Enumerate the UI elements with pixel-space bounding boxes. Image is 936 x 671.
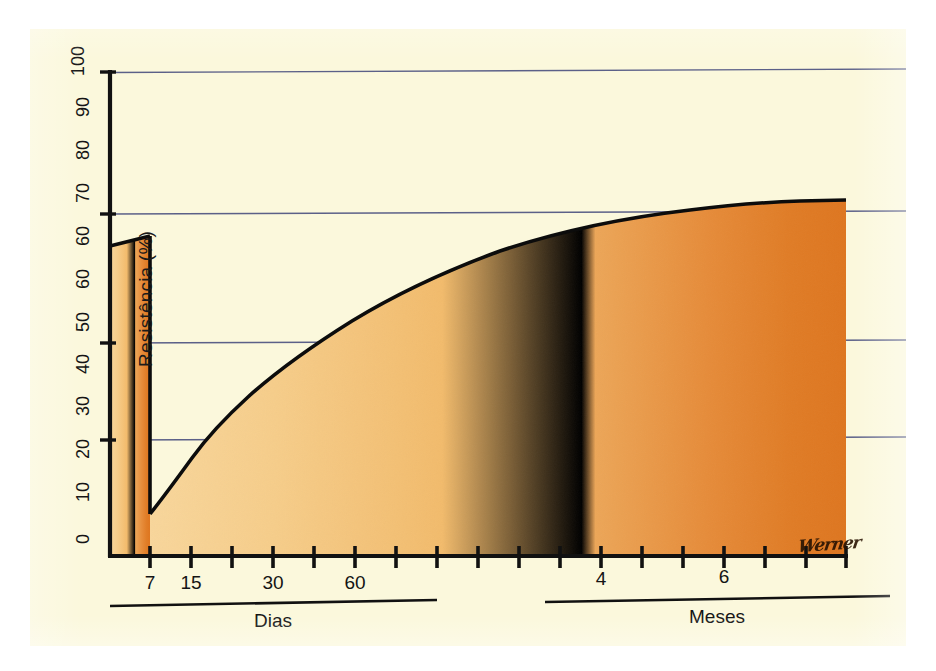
y-tick-label-40: 40: [70, 347, 96, 381]
y-tick-label-100: 100: [65, 44, 91, 78]
group-label-dias: Dias: [223, 610, 323, 632]
y-tick-label-60a: 60: [70, 262, 96, 296]
x-tick-label-4: 4: [581, 568, 621, 590]
y-tick-label-60b: 60: [70, 219, 96, 253]
x-tick-label-30: 30: [253, 572, 293, 594]
x-tick-label-7: 7: [130, 572, 170, 594]
group-label-meses: Meses: [667, 606, 767, 628]
y-axis-title-text: Resistência (%): [135, 231, 157, 367]
y-axis-title: Resistência (%): [131, 219, 161, 379]
x-tick-label-15: 15: [171, 572, 211, 594]
y-tick-label-70: 70: [70, 176, 96, 210]
y-tick-label-90: 90: [70, 90, 96, 124]
chart-figure: Resistência (%) 0 10 20 30 40 50 60 60 7…: [0, 0, 936, 671]
y-tick-label-0: 0: [70, 522, 96, 556]
figure-panel: Resistência (%) 0 10 20 30 40 50 60 60 7…: [30, 29, 906, 646]
y-tick-label-50: 50: [70, 305, 96, 339]
y-tick-label-10: 10: [70, 475, 96, 509]
x-tick-label-60: 60: [335, 572, 375, 594]
y-tick-label-30: 30: [70, 389, 96, 423]
chart-canvas: [30, 29, 906, 646]
y-tick-label-80: 80: [70, 133, 96, 167]
x-tick-label-6: 6: [704, 566, 744, 588]
y-tick-label-20: 20: [70, 432, 96, 466]
